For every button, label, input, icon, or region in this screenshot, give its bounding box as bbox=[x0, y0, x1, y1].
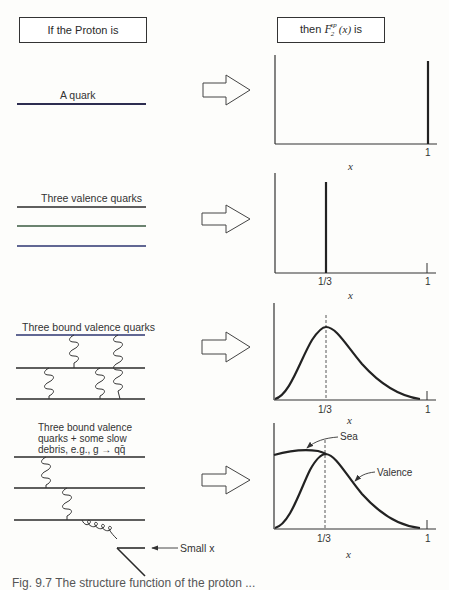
figure-caption: Fig. 9.7 The structure function of the p… bbox=[12, 576, 255, 590]
row1-plot bbox=[275, 55, 437, 144]
row2-quark-lines bbox=[17, 207, 146, 246]
sea-label: Sea bbox=[340, 431, 358, 442]
row2-arrow-icon bbox=[202, 205, 250, 233]
row3-plot bbox=[274, 303, 436, 400]
row4-label-line2: quarks + some slow bbox=[38, 433, 127, 444]
row3-label: Three bound valence quarks bbox=[22, 321, 155, 333]
row3-arrow-icon bbox=[202, 332, 250, 362]
row4-xlabel: x bbox=[346, 548, 351, 560]
row2-label: Three valence quarks bbox=[41, 192, 142, 204]
row3-tick-1: 1 bbox=[425, 404, 431, 415]
row4-arrow-icon bbox=[202, 466, 250, 494]
row1-arrow-icon bbox=[203, 75, 250, 105]
valence-label: Valence bbox=[377, 467, 412, 478]
small-x-label: Small x bbox=[180, 542, 214, 554]
row4-gluons bbox=[42, 457, 118, 539]
row4-sea-quark-pair bbox=[117, 548, 145, 576]
row4-tick-third: 1/3 bbox=[317, 533, 331, 544]
row4-tick-1: 1 bbox=[425, 533, 431, 544]
row2-plot bbox=[275, 173, 436, 273]
row3-xlabel: x bbox=[347, 414, 352, 426]
row2-tick-1: 1 bbox=[425, 276, 431, 287]
row1-label: A quark bbox=[60, 89, 96, 101]
row3-quark-lines bbox=[16, 335, 145, 399]
row2-xlabel: x bbox=[348, 289, 353, 301]
row3-gluons bbox=[45, 335, 123, 399]
row4-quark-lines bbox=[14, 457, 145, 520]
row4-label-line1: Three bound valence bbox=[38, 422, 132, 433]
row1-tick-1: 1 bbox=[425, 147, 431, 158]
row1-xlabel: x bbox=[348, 160, 353, 172]
row2-tick-third: 1/3 bbox=[318, 276, 332, 287]
row4-label-line3: debris, e.g., g → qq̄ bbox=[38, 444, 125, 455]
row3-tick-third: 1/3 bbox=[318, 404, 332, 415]
